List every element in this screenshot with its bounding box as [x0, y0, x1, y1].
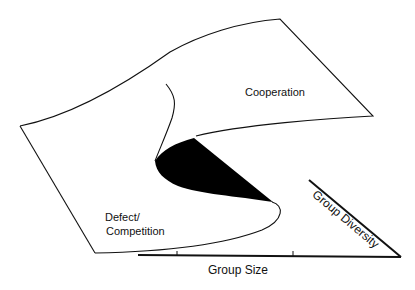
fold-underside: [155, 138, 273, 202]
defect-label: Defect/: [105, 211, 140, 224]
catastrophe-surface-diagram: [0, 0, 415, 290]
upper-surface-edge: [20, 19, 373, 136]
group-size-axis: [138, 255, 401, 257]
competition-label: Competition: [106, 225, 165, 238]
left-surface-edge: [20, 126, 95, 253]
group-size-label: Group Size: [208, 264, 268, 277]
cooperation-label: Cooperation: [245, 86, 305, 99]
